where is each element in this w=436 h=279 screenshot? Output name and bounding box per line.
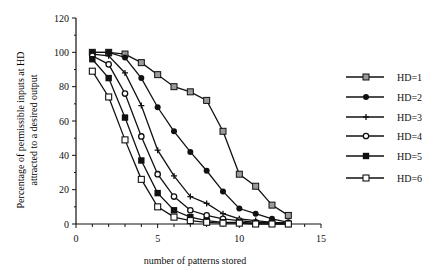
gray-square-marker-icon [285,212,291,218]
gray-square-marker-icon [187,89,193,95]
y-tick-label: 120 [54,13,69,24]
filled-square-marker-icon [89,56,95,62]
filled-circle-marker-icon [204,168,210,174]
filled-square-marker-icon [122,114,128,120]
open-square-marker-icon [106,94,112,100]
y-tick-label: 60 [59,116,69,127]
x-axis-label: number of patterns stored [120,255,270,266]
filled-circle-marker-icon [253,211,259,217]
series-line [92,52,288,215]
open-square-marker-icon [253,221,259,227]
filled-square-marker-icon [363,153,369,159]
open-square-marker-icon [285,221,291,227]
open-square-marker-icon [187,218,193,224]
gray-square-marker-icon [363,74,369,80]
legend: HD=1HD=2HD=3HD=4HD=5HD=6 [346,72,422,184]
series-hd-1 [89,49,291,218]
series-hd-3 [89,51,291,226]
open-square-marker-icon [220,220,226,226]
filled-circle-marker-icon [138,75,144,81]
gray-square-marker-icon [155,72,161,78]
legend-label: HD=2 [397,92,422,103]
legend-item: HD=5 [346,151,422,162]
y-axis-label-line1: Percentage of permissible inputs at HD [15,52,26,209]
filled-circle-marker-icon [220,188,226,194]
x-tick-label: 0 [74,233,79,244]
legend-label: HD=1 [397,72,422,83]
open-square-marker-icon [155,204,161,210]
plus-marker-icon [363,114,369,120]
open-square-marker-icon [138,176,144,182]
line-chart: 020406080100120051015 HD=1HD=2HD=3HD=4HD… [0,0,436,279]
gray-square-marker-icon [236,171,242,177]
open-circle-marker-icon [122,91,127,96]
legend-label: HD=6 [397,173,422,184]
filled-circle-marker-icon [155,104,161,110]
legend-item: HD=4 [346,131,422,142]
open-square-marker-icon [269,221,275,227]
legend-label: HD=3 [397,112,422,123]
y-tick-label: 80 [59,81,69,92]
filled-circle-marker-icon [236,206,242,212]
legend-label: HD=5 [397,151,422,162]
legend-label: HD=4 [397,131,422,142]
y-axis-label-line2: attracted to a desired output [28,74,39,185]
y-tick-label: 40 [59,150,69,161]
legend-item: HD=6 [346,173,422,184]
filled-circle-marker-icon [363,94,369,100]
open-circle-marker-icon [106,62,111,67]
gray-square-marker-icon [204,97,210,103]
open-square-marker-icon [236,220,242,226]
filled-circle-marker-icon [187,149,193,155]
legend-item: HD=3 [346,112,422,123]
series-hd-4 [90,53,291,226]
gray-square-marker-icon [138,60,144,66]
open-square-marker-icon [89,68,95,74]
x-tick-label: 10 [234,233,244,244]
open-circle-marker-icon [188,208,193,213]
open-square-marker-icon [363,175,369,181]
filled-circle-marker-icon [171,128,177,134]
plus-marker-icon [204,200,210,206]
open-circle-marker-icon [363,133,368,138]
open-square-marker-icon [122,137,128,143]
y-tick-label: 20 [59,184,69,195]
legend-item: HD=2 [346,92,422,103]
filled-circle-marker-icon [122,54,128,60]
filled-square-marker-icon [105,75,111,81]
filled-square-marker-icon [154,190,160,196]
legend-item: HD=1 [346,72,422,83]
open-circle-marker-icon [204,213,209,218]
open-circle-marker-icon [171,194,176,199]
plus-marker-icon [138,103,144,109]
series-group [89,49,291,227]
open-circle-marker-icon [139,134,144,139]
gray-square-marker-icon [269,202,275,208]
series-hd-5 [89,56,291,227]
gray-square-marker-icon [220,128,226,134]
open-square-marker-icon [171,214,177,220]
y-tick-label: 0 [64,219,69,230]
open-circle-marker-icon [155,172,160,177]
gray-square-marker-icon [171,84,177,90]
filled-square-marker-icon [138,157,144,163]
x-tick-label: 15 [316,233,326,244]
open-square-marker-icon [204,219,210,225]
gray-square-marker-icon [253,183,259,189]
x-tick-label: 5 [155,233,160,244]
filled-square-marker-icon [171,207,177,213]
y-tick-label: 100 [54,47,69,58]
